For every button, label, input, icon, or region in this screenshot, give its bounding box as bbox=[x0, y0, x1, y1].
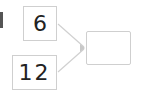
input-value: 12 bbox=[19, 62, 51, 84]
input-box-6: 6 bbox=[23, 6, 57, 41]
arrow-from-6 bbox=[58, 24, 84, 47]
input-box-12: 12 bbox=[12, 55, 57, 90]
output-answer-box[interactable] bbox=[86, 31, 131, 65]
input-value: 6 bbox=[33, 13, 47, 35]
arrow-from-12 bbox=[58, 49, 84, 72]
